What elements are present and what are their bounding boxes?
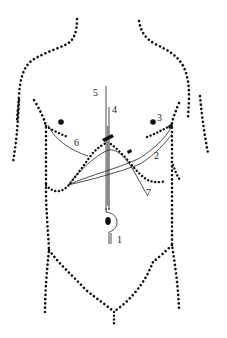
torso-diagram: 1 2 3 4 5 6 7 [0,0,227,338]
body-outline [13,19,208,325]
label-4: 4 [112,104,117,115]
line-6 [48,125,88,156]
right-nipple [150,119,156,125]
left-nipple [58,119,64,125]
line-2-crossing [127,149,132,154]
label-1: 1 [117,234,122,245]
label-2: 2 [154,150,159,161]
label-6: 6 [74,137,79,148]
label-3: 3 [157,112,162,123]
label-5: 5 [93,87,98,98]
label-7: 7 [146,187,151,198]
